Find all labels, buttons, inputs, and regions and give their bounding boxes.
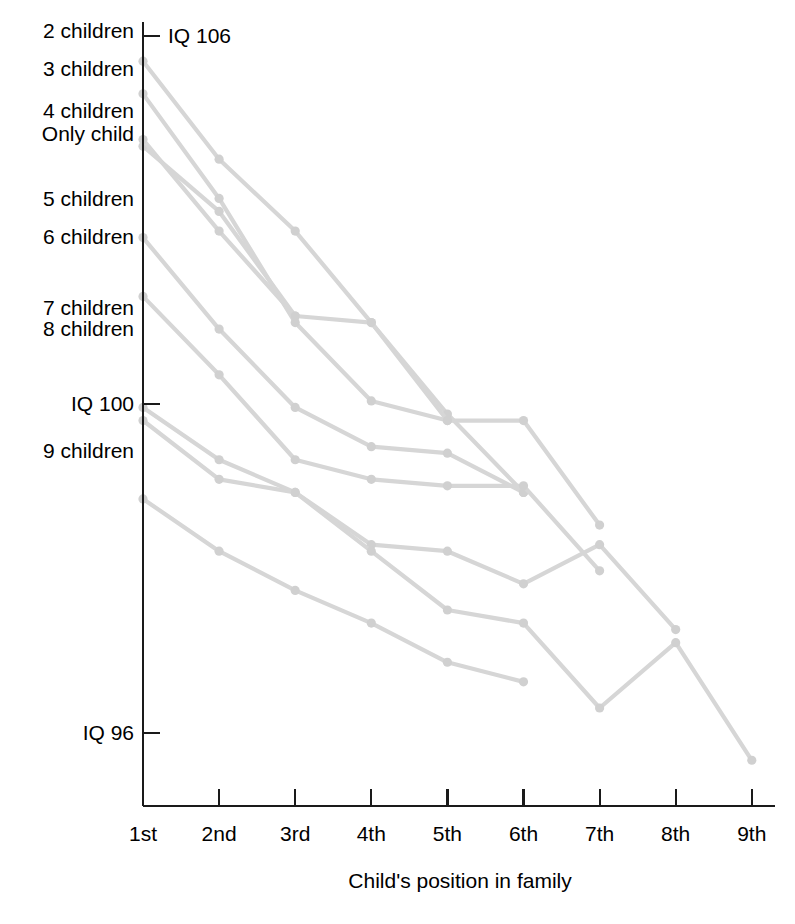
data-point [595, 566, 604, 575]
data-point [291, 311, 300, 320]
x-tick-label-2nd: 2nd [202, 822, 237, 845]
series-label-9-children: 9 children [43, 439, 134, 462]
series-line-9-children [143, 499, 524, 682]
data-point [443, 481, 452, 490]
data-point [747, 756, 756, 765]
data-point [215, 455, 224, 464]
x-tick-label-8th: 8th [661, 822, 690, 845]
series-label-2-children: 2 children [43, 19, 134, 42]
data-point [367, 618, 376, 627]
data-point [215, 226, 224, 235]
x-tick-label-9th: 9th [737, 822, 766, 845]
data-point [443, 547, 452, 556]
data-point [215, 155, 224, 164]
data-point [291, 403, 300, 412]
series-line-4-children [143, 140, 447, 421]
x-tick-label-4th: 4th [357, 822, 386, 845]
data-point [443, 658, 452, 667]
axes-group [143, 22, 775, 806]
series-label-6-children: 6 children [43, 225, 134, 248]
x-tick-label-5th: 5th [433, 822, 462, 845]
data-point [215, 324, 224, 333]
series-label-7-children: 7 children [43, 296, 134, 319]
data-point [443, 449, 452, 458]
data-point [215, 207, 224, 216]
data-point [291, 586, 300, 595]
series-layer [138, 57, 756, 765]
data-point [367, 547, 376, 556]
data-point [595, 520, 604, 529]
series-line-8-children [143, 421, 752, 761]
x-tick-marks [143, 789, 752, 806]
data-point [519, 579, 528, 588]
series-label-3-children: 3 children [43, 57, 134, 80]
series-label-4-children: 4 children [43, 99, 134, 122]
series-label-5-children: 5 children [43, 187, 134, 210]
series-label-8-children: 8 children [43, 317, 134, 340]
data-point [595, 703, 604, 712]
x-tick-label-6th: 6th [509, 822, 538, 845]
data-point [671, 638, 680, 647]
data-point [367, 318, 376, 327]
data-point [443, 416, 452, 425]
data-point [519, 618, 528, 627]
data-point [595, 540, 604, 549]
x-tick-label-7th: 7th [585, 822, 614, 845]
data-point [291, 455, 300, 464]
data-point [367, 396, 376, 405]
data-point [519, 481, 528, 490]
iq-birth-order-line-chart: 2 children3 children4 childrenOnly child… [0, 0, 795, 924]
x-axis-title: Child's position in family [348, 869, 572, 892]
chart-container: 2 children3 children4 childrenOnly child… [0, 0, 795, 924]
data-point [519, 677, 528, 686]
data-point [291, 226, 300, 235]
data-point [215, 547, 224, 556]
data-point [443, 605, 452, 614]
data-point [215, 475, 224, 484]
data-point [215, 370, 224, 379]
y-label-iq96: IQ 96 [83, 721, 134, 744]
data-point [671, 625, 680, 634]
y-label-iq100: IQ 100 [71, 392, 134, 415]
x-tick-label-3rd: 3rd [280, 822, 310, 845]
series-line-3-children [143, 94, 600, 525]
data-point [367, 475, 376, 484]
annotation-iq106: IQ 106 [168, 24, 231, 47]
data-point [367, 442, 376, 451]
x-tick-label-1st: 1st [129, 822, 157, 845]
series-label-only-child: Only child [42, 122, 134, 145]
data-point [291, 488, 300, 497]
x-tick-labels: 1st2nd3rd4th5th6th7th8th9th [129, 822, 766, 845]
data-point [519, 416, 528, 425]
data-point [215, 194, 224, 203]
